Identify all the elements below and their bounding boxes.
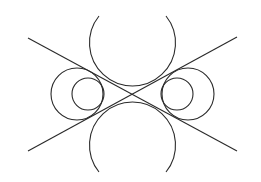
tangent-circles-diagram bbox=[0, 0, 261, 182]
right-large-circle bbox=[162, 68, 214, 120]
left-large-circle bbox=[51, 68, 103, 120]
tangent-lines bbox=[28, 37, 237, 151]
right-small-circle bbox=[161, 78, 193, 110]
left-small-circle bbox=[72, 78, 104, 110]
bottom-arc bbox=[89, 102, 175, 172]
top-arc bbox=[89, 16, 175, 86]
